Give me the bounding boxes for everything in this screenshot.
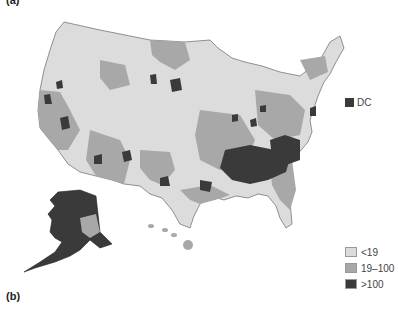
dc-inset-swatch xyxy=(345,98,354,107)
legend: <19 19–100 >100 xyxy=(345,244,394,292)
hawaii-shape xyxy=(148,224,193,250)
dc-label: DC xyxy=(357,97,371,108)
legend-item-mid: 19–100 xyxy=(345,260,394,276)
panel-label-b: (b) xyxy=(6,290,20,302)
legend-swatch-high xyxy=(345,279,357,289)
legend-swatch-mid xyxy=(345,263,357,273)
us-county-choropleth-map xyxy=(0,0,398,313)
legend-item-high: >100 xyxy=(345,276,394,292)
legend-item-low: <19 xyxy=(345,244,394,260)
legend-swatch-low xyxy=(345,247,357,257)
